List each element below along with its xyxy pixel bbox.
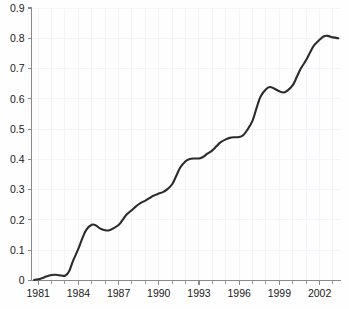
y-tick-label: 0.9 [10,2,25,14]
x-tick-label: 1990 [147,287,171,299]
y-tick-label: 0.7 [10,62,25,74]
x-tick-label: 1987 [107,287,131,299]
chart-figure: 00.10.20.30.40.50.60.70.80.9 19811984198… [0,0,349,309]
y-tick-label: 0.3 [10,183,25,195]
chart-background [0,0,349,309]
x-tick-label: 1981 [27,287,51,299]
y-tick-label: 0.6 [10,93,25,105]
y-tick-label: 0.4 [10,153,25,165]
y-tick-label: 0 [19,274,25,286]
y-tick-label: 0.5 [10,123,25,135]
x-tick-label: 1996 [227,287,251,299]
x-tick-label: 1984 [67,287,91,299]
line-chart-svg: 00.10.20.30.40.50.60.70.80.9 19811984198… [0,0,349,309]
x-tick-label: 2002 [308,287,332,299]
y-tick-label: 0.2 [10,214,25,226]
x-tick-label: 1999 [268,287,292,299]
y-tick-label: 0.1 [10,244,25,256]
x-tick-label: 1993 [187,287,211,299]
y-tick-label: 0.8 [10,32,25,44]
